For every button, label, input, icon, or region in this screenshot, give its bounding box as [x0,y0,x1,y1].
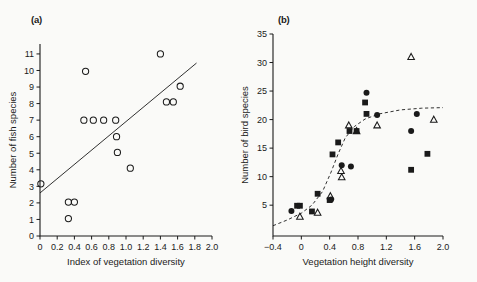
y-tick-label: 0 [29,231,34,241]
data-point-filled-circle [348,163,354,169]
panel-b: (b) −0.400.40.81.21.62.05101520253035 Ve… [230,0,477,282]
data-point-filled-square [297,203,303,209]
x-tick-label: 1.6 [408,242,421,252]
data-point-open-triangle [408,53,415,59]
y-tick-label: 10 [24,66,34,76]
data-point-open-circle [170,99,176,105]
data-point-open-circle [82,68,88,74]
y-tick-label: 5 [262,200,267,210]
panel-a-fit-line [40,63,197,193]
y-tick-label: 2 [29,198,34,208]
data-point-filled-circle [339,162,345,168]
panel-a: (a) 00.20.40.60.81.01.21.41.61.82.001234… [0,0,240,282]
data-point-open-triangle [297,213,304,219]
x-tick-label: 0 [299,242,304,252]
y-tick-label: 1 [29,215,34,225]
y-tick-label: 8 [29,99,34,109]
panel-a-x-axis-title: Index of vegetation diversity [67,256,185,267]
data-point-filled-square [335,140,341,146]
data-point-open-triangle [314,209,321,215]
panel-b-tick-labels: −0.400.40.81.21.62.05101520253035 [257,29,449,251]
y-tick-label: 15 [257,143,267,153]
x-tick-label: 1.0 [120,242,133,252]
panel-b-y-axis-title: Number of bird species [239,86,250,184]
data-point-open-circle [38,181,44,187]
x-tick-label: 1.4 [154,242,167,252]
data-point-open-triangle [338,168,345,174]
y-tick-label: 20 [257,115,267,125]
y-tick-label: 10 [257,172,267,182]
data-point-filled-square [408,167,414,173]
panel-a-axes [37,44,213,240]
data-point-open-triangle [338,174,345,180]
axis-spine [40,44,212,236]
data-point-open-circle [71,199,77,205]
data-point-open-circle [65,216,71,222]
data-point-filled-square [347,128,353,134]
x-tick-label: 0.8 [103,242,116,252]
data-point-filled-square [309,209,315,215]
data-point-filled-square [330,152,336,158]
panel-b-axes [270,34,444,240]
x-tick-label: 0.4 [323,242,336,252]
data-point-filled-circle [414,111,420,117]
x-tick-label: 0 [37,242,42,252]
data-point-open-circle [65,199,71,205]
data-point-open-triangle [430,116,437,122]
panel-a-data-points [38,51,184,222]
y-tick-label: 11 [25,49,34,59]
data-point-filled-square [425,151,431,157]
data-point-open-triangle [374,122,381,128]
data-point-filled-circle [364,90,370,96]
panel-a-y-axis-title: Number of fish species [7,91,18,188]
x-tick-label: 0.4 [68,242,81,252]
data-point-open-circle [113,117,119,123]
data-point-filled-square [362,100,368,106]
x-tick-label: 0.8 [352,242,365,252]
x-tick-label: 2.0 [437,242,450,252]
x-tick-label: 2.0 [206,242,219,252]
fit-line [40,63,197,193]
data-point-filled-square [315,191,321,197]
data-point-open-circle [157,51,163,57]
data-point-open-circle [81,117,87,123]
y-tick-label: 6 [29,132,34,142]
y-tick-label: 25 [257,86,267,96]
x-tick-label: 0.2 [51,242,64,252]
panel-b-plot: −0.400.40.81.21.62.05101520253035 Vegeta… [230,0,477,282]
y-tick-label: 9 [29,82,34,92]
data-point-filled-circle [408,128,414,134]
x-tick-label: 1.8 [189,242,202,252]
panel-b-data-points [288,53,437,219]
panel-a-tick-labels: 00.20.40.60.81.01.21.41.61.82.0012345678… [24,49,218,251]
x-tick-label: −0.4 [264,242,282,252]
data-point-filled-square [364,111,370,117]
data-point-open-circle [127,165,133,171]
data-point-open-circle [90,117,96,123]
panel-a-plot: 00.20.40.60.81.01.21.41.61.82.0012345678… [0,0,240,282]
y-tick-label: 7 [29,115,34,125]
figure-canvas: (a) 00.20.40.60.81.01.21.41.61.82.001234… [0,0,477,282]
y-tick-label: 30 [257,58,267,68]
x-tick-label: 1.2 [137,242,150,252]
y-tick-label: 3 [29,182,34,192]
data-point-open-triangle [345,122,352,128]
y-tick-label: 35 [257,29,267,39]
data-point-filled-circle [374,112,380,118]
data-point-open-circle [114,149,120,155]
data-point-filled-circle [288,208,294,214]
data-point-open-circle [113,134,119,140]
panel-b-x-axis-title: Vegetation height diversity [303,256,414,267]
y-tick-label: 4 [29,165,34,175]
x-tick-label: 0.6 [85,242,98,252]
x-tick-label: 1.6 [171,242,184,252]
data-point-open-circle [177,83,183,89]
data-point-open-circle [163,99,169,105]
x-tick-label: 1.2 [380,242,393,252]
y-tick-label: 5 [29,149,34,159]
data-point-open-circle [101,117,107,123]
